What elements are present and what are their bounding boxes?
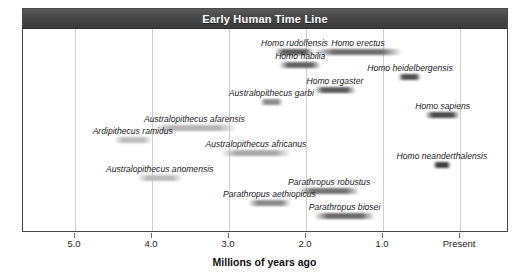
species-range-bar xyxy=(433,162,451,168)
timeline-entry: Homo sapiens xyxy=(425,112,460,118)
timeline-entry: Homo heidelbergensis xyxy=(398,74,421,80)
species-label: Australopithecus afarensis xyxy=(144,114,245,124)
timeline-entry: Homo neanderthalensis xyxy=(433,162,451,168)
species-label: Homo habilia xyxy=(275,51,325,61)
species-range-bar xyxy=(314,49,403,55)
species-label: Australopithecus africanus xyxy=(206,139,307,149)
species-label: Homo sapiens xyxy=(415,101,470,111)
timeline-entry: Australopithecus garbi xyxy=(260,99,283,105)
x-axis-title: Millions of years ago xyxy=(0,256,529,268)
species-label: Parathropus biosei xyxy=(309,202,381,212)
species-range-bar xyxy=(279,62,321,68)
species-label: Parathropus aethiopicus xyxy=(223,189,316,199)
species-range-bar xyxy=(248,200,290,206)
species-range-bar xyxy=(260,99,283,105)
axis-tick-label: 2.0 xyxy=(298,238,311,249)
timeline-entry: Parathropus aethiopicus xyxy=(248,200,290,206)
species-label: Homo ergaster xyxy=(306,76,363,86)
species-label: Homo heidelbergensis xyxy=(367,63,453,73)
species-range-bar xyxy=(425,112,460,118)
timeline-entry: Australopithecus anomensis xyxy=(137,175,183,181)
chart-title-bar: Early Human Time Line xyxy=(23,9,507,29)
axis-tick-label: 3.0 xyxy=(221,238,234,249)
species-label: Homo rudolfensis xyxy=(261,38,328,48)
species-range-bar xyxy=(114,137,153,143)
timeline-entry: Ardipithecus ramidus xyxy=(114,137,153,143)
species-label: Ardipithecus ramidus xyxy=(93,126,173,136)
species-label: Australopithecus garbi xyxy=(229,88,314,98)
species-range-bar xyxy=(314,87,356,93)
timeline-entry: Homo ergaster xyxy=(314,87,356,93)
axis-tick-label: 5.0 xyxy=(67,238,80,249)
species-label: Parathropus robustus xyxy=(288,177,370,187)
axis-tick-label: 4.0 xyxy=(144,238,157,249)
chart-frame: Early Human Time Line Homo rudolfensisHo… xyxy=(22,8,508,232)
species-range-bar xyxy=(314,213,376,219)
gridline xyxy=(460,29,461,231)
species-range-bar xyxy=(398,74,421,80)
timeline-entry: Parathropus biosei xyxy=(314,213,376,219)
species-range-bar xyxy=(221,150,290,156)
species-label: Homo erectus xyxy=(331,38,385,48)
early-human-timeline-chart: Early Human Time Line Homo rudolfensisHo… xyxy=(0,0,529,277)
timeline-entry: Australopithecus africanus xyxy=(221,150,290,156)
species-label: Homo neanderthalensis xyxy=(397,151,488,161)
species-range-bar xyxy=(137,175,183,181)
axis-tick-label: 1.0 xyxy=(375,238,388,249)
timeline-entry: Homo erectus xyxy=(314,49,403,55)
plot-area: Homo rudolfensisHomo erectusHomo habilia… xyxy=(23,29,507,231)
species-label: Australopithecus anomensis xyxy=(106,164,213,174)
gridline xyxy=(75,29,76,231)
timeline-entry: Homo habilia xyxy=(279,62,321,68)
gridline xyxy=(383,29,384,231)
page-title: Early Human Time Line xyxy=(202,13,328,25)
axis-tick-label: Present xyxy=(443,238,476,249)
